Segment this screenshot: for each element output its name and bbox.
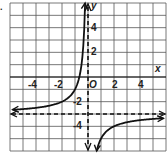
x-tick-label: -4 (28, 80, 37, 90)
y-tick-label: -2 (73, 97, 82, 107)
x-axis-label: x (155, 64, 161, 74)
y-tick-label: 2 (91, 47, 97, 57)
y-axis-label: y (91, 1, 97, 11)
y-tick-label: -4 (73, 121, 82, 131)
x-tick-label: -2 (54, 80, 63, 90)
y-tick-label: 4 (91, 23, 97, 33)
x-tick-label: 2 (112, 80, 118, 90)
graph (0, 0, 167, 153)
x-tick-label: 4 (138, 80, 144, 90)
origin-label: O (89, 80, 97, 90)
